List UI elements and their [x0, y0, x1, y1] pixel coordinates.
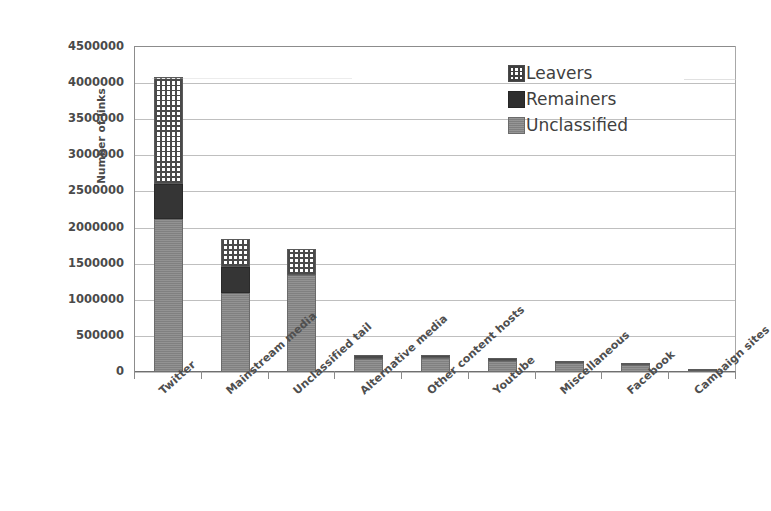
y-axis-tick-label: 3500000 — [38, 111, 124, 125]
y-axis-tick-label: 1500000 — [38, 256, 124, 270]
legend-item-label: Leavers — [526, 63, 592, 83]
y-axis-tick-label: 4500000 — [38, 39, 124, 53]
y-axis-tick-label: 2500000 — [38, 183, 124, 197]
x-axis-tick — [401, 371, 402, 379]
bar-segment-leavers — [154, 77, 183, 184]
x-axis-tick — [268, 371, 269, 379]
bar-segment-leavers — [488, 358, 517, 361]
x-axis-tick — [201, 371, 202, 379]
bar-segment-leavers — [555, 361, 584, 363]
bar-segment-leavers — [421, 355, 450, 357]
x-axis-tick — [468, 371, 469, 379]
crosshatch-swatch-icon — [508, 65, 525, 82]
scan-artifact — [152, 78, 352, 79]
x-axis-tick — [334, 371, 335, 379]
y-axis-tick-labels: 4500000400000035000003000000250000020000… — [38, 39, 124, 379]
x-axis-tick — [601, 371, 602, 379]
y-axis-tick-label: 3000000 — [38, 147, 124, 161]
bar-segment-unclassified — [221, 293, 250, 372]
x-axis-tick — [134, 371, 135, 379]
bar-segment-remainers — [154, 184, 183, 219]
bar-segment-unclassified — [154, 219, 183, 372]
gray-solid-swatch-icon — [508, 117, 525, 134]
bar-segment-remainers — [221, 267, 250, 292]
legend-item-label: Remainers — [526, 89, 616, 109]
dark-solid-swatch-icon — [508, 91, 525, 108]
y-axis-tick-label: 0 — [38, 364, 124, 378]
y-axis-tick-label: 500000 — [38, 328, 124, 342]
chart-legend: LeaversRemainersUnclassified — [508, 60, 718, 138]
bar-group — [221, 47, 250, 372]
legend-item-label: Unclassified — [526, 115, 628, 135]
x-axis-tick — [735, 371, 736, 379]
y-axis-tick-label: 4000000 — [38, 75, 124, 89]
y-axis-tick-label: 1000000 — [38, 292, 124, 306]
x-axis-tick — [668, 371, 669, 379]
legend-item: Unclassified — [508, 112, 718, 138]
bar-segment-leavers — [287, 249, 316, 274]
bar-chart: Number of links 450000040000003500000300… — [0, 0, 771, 511]
bar-segment-leavers — [221, 239, 250, 267]
legend-item: Remainers — [508, 86, 718, 112]
plot-right-edge — [735, 46, 736, 372]
bar-segment-leavers — [621, 363, 650, 365]
y-axis-tick-label: 2000000 — [38, 220, 124, 234]
bar-group — [154, 47, 183, 372]
scan-artifact — [684, 79, 736, 80]
bar-segment-leavers — [354, 355, 383, 359]
x-axis-tick — [535, 371, 536, 379]
legend-item: Leavers — [508, 60, 718, 86]
